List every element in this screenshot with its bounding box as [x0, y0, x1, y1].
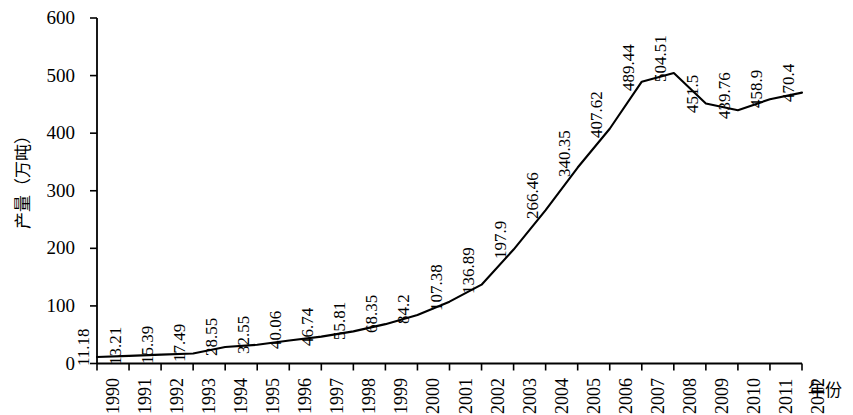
data-series-line — [97, 73, 802, 357]
production-line-chart: 产量（万吨） 年份 0100200300400500600 1990199119… — [0, 0, 853, 415]
axes — [90, 18, 802, 371]
plot-area — [0, 0, 853, 415]
